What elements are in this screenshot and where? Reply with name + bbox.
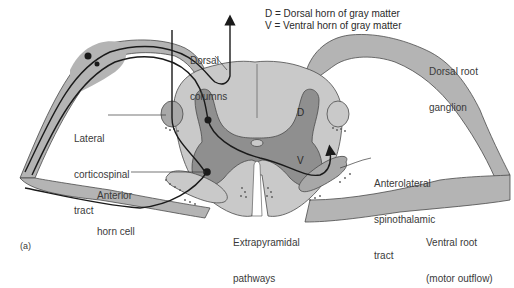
label-dorsal-root-ganglion: Dorsal root ganglion <box>429 42 478 126</box>
label-anterior-horn-cell: Anterior horn cell <box>97 166 135 250</box>
ganglion-cell-large <box>85 53 92 60</box>
right-lateral-corticospinal-tract <box>327 101 349 127</box>
dorsal-horn-cell <box>205 117 212 124</box>
figure-caption: (a) <box>20 240 31 252</box>
label-extrapyramidal-pathways: Extrapyramidal pathways <box>233 213 300 288</box>
horn-v-label: V <box>297 155 304 166</box>
legend-dorsal: D = Dorsal horn of gray matter <box>265 8 400 20</box>
label-ventral-root: Ventral root (motor outflow) <box>426 213 493 288</box>
central-canal <box>251 140 263 147</box>
legend-ventral: V = Ventral horn of gray matter <box>265 20 401 32</box>
label-dorsal-columns: Dorsal columns <box>190 31 227 115</box>
horn-d-label: D <box>297 107 304 118</box>
ganglion-cell-small <box>95 62 100 67</box>
